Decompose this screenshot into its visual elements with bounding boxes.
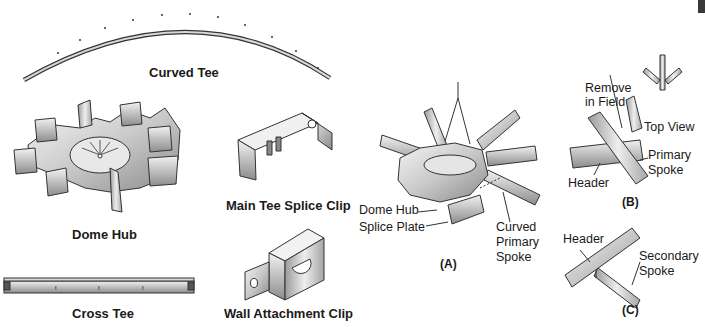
caption-a: (A) bbox=[440, 257, 457, 271]
callout-a-dome-hub: Dome Hub bbox=[359, 203, 419, 218]
callout-b-top-view: Top View bbox=[644, 120, 695, 135]
caption-c: (C) bbox=[622, 303, 639, 317]
callout-b-header: Header bbox=[568, 176, 609, 191]
callout-b-spoke: Spoke bbox=[648, 163, 683, 178]
callout-a-curved: Curved bbox=[496, 220, 536, 235]
callout-a-splice-plate: Splice Plate bbox=[359, 220, 425, 235]
main-tee-splice-clip-illustration bbox=[238, 113, 332, 180]
label-cross-tee: Cross Tee bbox=[72, 306, 134, 321]
callout-c-header: Header bbox=[563, 232, 604, 247]
illustrations bbox=[0, 0, 705, 327]
callout-c-secondary: Secondary bbox=[639, 249, 699, 264]
wall-attachment-clip-illustration bbox=[245, 229, 324, 300]
callout-a-spoke: Spoke bbox=[496, 250, 531, 265]
label-main-tee-splice-clip: Main Tee Splice Clip bbox=[226, 198, 351, 213]
callout-b-primary: Primary bbox=[648, 148, 691, 163]
label-wall-attachment-clip: Wall Attachment Clip bbox=[224, 306, 353, 321]
label-dome-hub: Dome Hub bbox=[72, 227, 137, 242]
dome-hub-illustration bbox=[14, 100, 180, 212]
label-curved-tee: Curved Tee bbox=[149, 65, 219, 80]
callout-b-in-field: in Field bbox=[585, 95, 625, 110]
caption-b: (B) bbox=[622, 195, 639, 209]
callout-c-spoke: Spoke bbox=[639, 264, 674, 279]
callout-b-remove: Remove bbox=[585, 81, 632, 96]
callout-a-primary: Primary bbox=[496, 235, 539, 250]
cross-tee-illustration bbox=[4, 278, 194, 293]
